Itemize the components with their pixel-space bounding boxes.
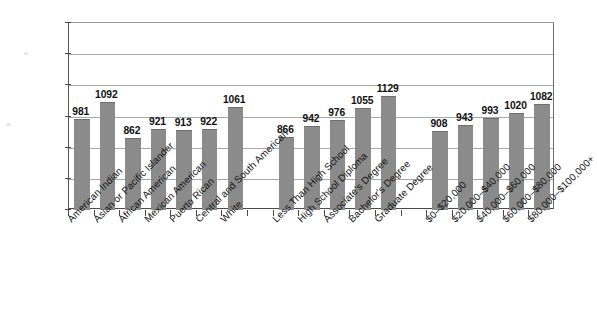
y-tick-mark xyxy=(65,178,71,179)
bar-value-label: 1129 xyxy=(371,83,405,94)
scan-artifact xyxy=(6,123,11,126)
scan-artifact xyxy=(24,52,28,55)
y-tick-mark xyxy=(65,147,71,148)
bar-value-label: 922 xyxy=(192,116,226,127)
y-tick-mark xyxy=(65,22,71,23)
bar-value-label: 1061 xyxy=(217,94,251,105)
bar-value-label: 1082 xyxy=(524,91,558,102)
bar-value-label: 1020 xyxy=(499,100,533,111)
bar-value-label: 1092 xyxy=(89,89,123,100)
y-tick-mark xyxy=(65,84,71,85)
x-tick-mark xyxy=(401,210,402,216)
x-tick-mark xyxy=(247,210,248,216)
y-axis: 4006008001000120014001600 xyxy=(0,0,68,323)
bar-value-label: 976 xyxy=(320,107,354,118)
bar-value-label: 981 xyxy=(64,106,98,117)
gridline xyxy=(69,23,553,24)
bar-value-label: 1055 xyxy=(345,95,379,106)
gridline xyxy=(69,85,553,86)
y-tick-mark xyxy=(65,53,71,54)
gridline xyxy=(69,54,553,55)
